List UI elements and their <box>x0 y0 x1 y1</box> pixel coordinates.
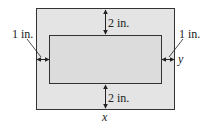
height-variable-label: y <box>177 52 184 66</box>
bottom-margin-label: 2 in. <box>108 91 129 105</box>
inner-print-rect <box>50 36 162 84</box>
top-margin-label: 2 in. <box>108 16 129 30</box>
right-margin-label: 1 in. <box>179 27 200 41</box>
width-variable-label: x <box>101 110 108 124</box>
left-margin-label: 1 in. <box>12 27 33 41</box>
margin-diagram: 2 in. 2 in. 1 in. 1 in. x y <box>0 0 208 131</box>
